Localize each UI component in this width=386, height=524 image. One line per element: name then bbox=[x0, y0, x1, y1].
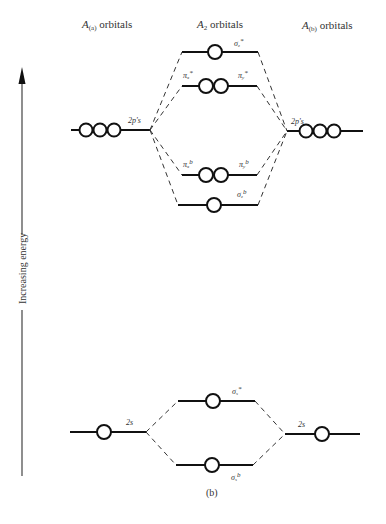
left-2s-level: 2s bbox=[70, 418, 146, 439]
svg-text:πyb: πyb bbox=[239, 158, 249, 169]
sigma-s-star-level: σs* bbox=[178, 385, 255, 408]
svg-text:πy*: πy* bbox=[238, 69, 248, 80]
header-middle: A2 orbitals bbox=[196, 18, 243, 32]
svg-text:2s: 2s bbox=[126, 418, 133, 427]
svg-text:πxb: πxb bbox=[183, 158, 193, 169]
svg-text:2p's: 2p's bbox=[291, 117, 304, 126]
svg-text:σz*: σz* bbox=[234, 37, 244, 48]
sigma-z-star-level: σz* bbox=[182, 37, 258, 59]
sigma-s-bonding-level: σsb bbox=[176, 458, 253, 482]
svg-text:σs*: σs* bbox=[232, 385, 242, 396]
2s-correlation-lines bbox=[146, 401, 285, 465]
svg-text:2p's: 2p's bbox=[128, 116, 141, 125]
left-2p-level: 2p's bbox=[71, 116, 150, 137]
arrow-up-icon bbox=[19, 67, 26, 84]
right-2s-level: 2s bbox=[285, 420, 360, 441]
right-2p-level: 2p's bbox=[287, 117, 363, 138]
svg-text:σsb: σsb bbox=[231, 471, 241, 482]
svg-text:2s: 2s bbox=[298, 420, 305, 429]
svg-text:πx*: πx* bbox=[183, 69, 193, 80]
header-left: A(a) orbitals bbox=[81, 18, 132, 32]
header-right: A(b) orbitals bbox=[301, 19, 353, 33]
sigma-z-bonding-level: σzb bbox=[178, 188, 258, 212]
energy-axis: Increasing energy bbox=[17, 67, 28, 476]
svg-text:σzb: σzb bbox=[237, 188, 247, 199]
figure-caption: (b) bbox=[206, 487, 218, 499]
axis-label: Increasing energy bbox=[17, 233, 28, 304]
pi-bonding-level: πxb πyb bbox=[182, 158, 257, 182]
mo-diagram: A(a) orbitals A2 orbitals A(b) orbitals … bbox=[0, 0, 386, 524]
pi-star-level: πx* πy* bbox=[182, 69, 257, 93]
